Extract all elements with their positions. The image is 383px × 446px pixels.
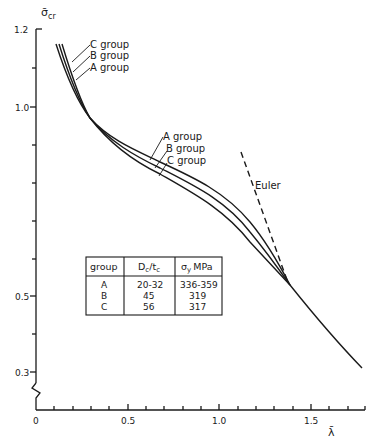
table-header-sigma-y: σyMPa — [181, 261, 213, 274]
y-tick-1.0: 1.0 — [15, 103, 30, 113]
label-euler: Euler — [255, 180, 282, 191]
table-cell-group-a: A — [101, 280, 108, 290]
table-cell-s-c: 317 — [189, 302, 206, 312]
curve-a-group — [56, 44, 362, 368]
table-cell-group-b: B — [101, 291, 107, 301]
table-cell-s-a: 336-359 — [180, 280, 218, 290]
table-header-dc-tc: Dc/tc — [138, 261, 160, 274]
y-tick-1.2: 1.2 — [14, 25, 28, 35]
x-axis — [36, 404, 365, 410]
label-a-group-upper: A group — [90, 62, 129, 73]
table-cell-s-b: 319 — [189, 291, 206, 301]
table-header-group: group — [90, 261, 118, 272]
table-cell-d-a: 20-32 — [137, 280, 163, 290]
label-a-group-mid: A group — [163, 131, 202, 142]
x-tick-0: 0 — [33, 416, 39, 426]
label-c-group-upper: C group — [90, 39, 129, 50]
curves — [56, 44, 362, 368]
y-axis-label: σ̄cr — [41, 6, 56, 21]
x-tick-1.0: 1.0 — [212, 416, 227, 426]
y-tick-0.5: 0.5 — [15, 292, 29, 302]
euler-curve — [241, 152, 287, 280]
buckling-curve-chart: 1.2 1.0 0.5 0.3 0 0.5 1.0 1.5 σ̄cr λ̄ C … — [0, 0, 383, 446]
y-axis — [30, 29, 42, 410]
table-cell-d-b: 45 — [143, 291, 154, 301]
x-tick-0.5: 0.5 — [121, 416, 135, 426]
y-tick-0.3: 0.3 — [15, 368, 29, 378]
label-c-group-mid: C group — [167, 155, 206, 166]
x-tick-1.5: 1.5 — [304, 416, 318, 426]
x-axis-label: λ̄ — [328, 426, 335, 439]
table-cell-d-c: 56 — [143, 302, 155, 312]
table-cell-group-c: C — [101, 302, 107, 312]
label-b-group-upper: B group — [90, 50, 129, 61]
label-b-group-mid: B group — [166, 143, 205, 154]
